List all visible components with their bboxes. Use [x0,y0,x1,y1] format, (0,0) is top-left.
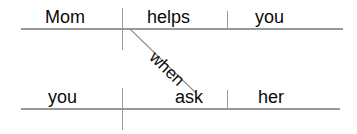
word-main-verb: helps [147,8,190,26]
word-main-object: you [255,8,284,26]
word-subordinate-object: her [258,88,284,106]
word-subordinate-subject: you [48,88,77,106]
sentence-diagram: Mom helps you when you ask her [0,0,357,134]
word-subordinate-verb: ask [175,88,203,106]
word-main-subject: Mom [45,8,85,26]
